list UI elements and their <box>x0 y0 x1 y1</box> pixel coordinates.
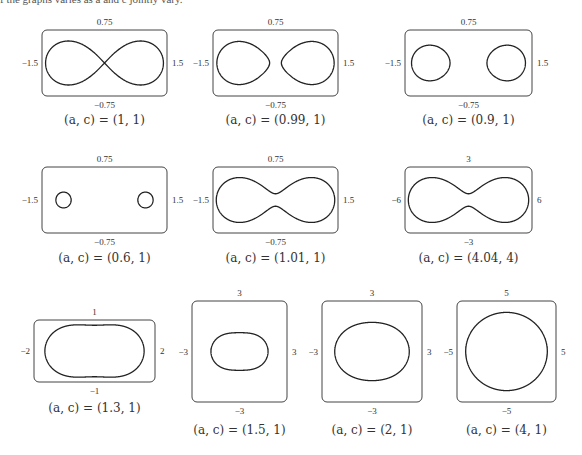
x-min-label: −1.5 <box>385 58 402 68</box>
y-max-label: 0.75 <box>268 17 284 27</box>
panel-caption: (a, c) = (1.3, 1) <box>48 401 140 415</box>
y-min-label: −3 <box>235 406 245 416</box>
plot-frame <box>405 167 532 233</box>
cassini-curve <box>46 41 164 85</box>
panel-caption: (a, c) = (4.04, 4) <box>419 251 519 265</box>
panel-caption: (a, c) = (1.5, 1) <box>193 423 285 437</box>
y-min-label: −5 <box>502 406 512 416</box>
cassini-curve <box>466 312 548 390</box>
cassini-curve <box>211 333 268 371</box>
y-max-label: 0.75 <box>461 17 477 27</box>
panel-caption: (a, c) = (1, 1) <box>64 113 145 127</box>
x-min-label: −1.5 <box>22 195 39 205</box>
y-min-label: −0.75 <box>265 100 286 110</box>
panel-caption: (a, c) = (0.99, 1) <box>226 113 326 127</box>
cassini-curve <box>216 178 334 223</box>
y-max-label: 0.75 <box>97 154 113 164</box>
x-max-label: 1.5 <box>537 58 549 68</box>
x-max-label: 2 <box>160 346 165 356</box>
x-min-label: −6 <box>391 195 401 205</box>
plot-frame <box>34 320 155 382</box>
y-min-label: −3 <box>367 406 377 416</box>
x-min-label: −5 <box>443 347 453 357</box>
y-min-label: −0.75 <box>94 237 115 247</box>
y-min-label: −0.75 <box>94 100 115 110</box>
x-max-label: 3 <box>292 347 297 357</box>
cassini-curve <box>408 178 528 223</box>
y-max-label: 0.75 <box>97 17 113 27</box>
x-max-label: 3 <box>427 347 432 357</box>
cassini-curve <box>45 325 144 377</box>
y-min-label: −0.75 <box>458 100 479 110</box>
plot-frame <box>213 167 338 233</box>
cassini-curve <box>412 45 526 81</box>
plot-frame <box>322 301 422 402</box>
y-min-label: −1 <box>90 386 100 396</box>
y-max-label: 3 <box>370 288 375 298</box>
panel-3: 0.75−0.75−1.51.5(a, c) = (0.9, 1) <box>385 17 549 127</box>
panel-caption: (a, c) = (0.6, 1) <box>58 251 150 265</box>
x-max-label: 5 <box>561 347 566 357</box>
panel-8: 3−3−33(a, c) = (1.5, 1) <box>178 288 297 437</box>
plot-frame <box>42 167 167 233</box>
x-min-label: −2 <box>20 346 30 356</box>
cassini-ovals-figure: 0.75−0.75−1.51.5(a, c) = (1, 1)0.75−0.75… <box>0 0 582 455</box>
y-max-label: 1 <box>92 307 97 317</box>
x-min-label: −1.5 <box>193 58 210 68</box>
panel-caption: (a, c) = (1.01, 1) <box>226 251 326 265</box>
y-max-label: 3 <box>466 154 471 164</box>
y-min-label: −3 <box>464 237 474 247</box>
panel-caption: (a, c) = (2, 1) <box>332 423 413 437</box>
y-max-label: 0.75 <box>268 154 284 164</box>
y-max-label: 5 <box>504 288 509 298</box>
x-min-label: −1.5 <box>193 195 210 205</box>
cassini-curve <box>335 322 410 380</box>
cassini-curve <box>56 192 153 208</box>
x-min-label: −3 <box>308 347 318 357</box>
panel-9: 3−3−33(a, c) = (2, 1) <box>308 288 432 437</box>
x-max-label: 1.5 <box>172 58 184 68</box>
panel-7: 1−1−22(a, c) = (1.3, 1) <box>20 307 164 415</box>
panel-4: 0.75−0.75−1.51.5(a, c) = (0.6, 1) <box>22 154 184 265</box>
plot-frame <box>405 30 532 96</box>
y-min-label: −0.75 <box>265 237 286 247</box>
y-max-label: 3 <box>237 288 242 298</box>
panel-2: 0.75−0.75−1.51.5(a, c) = (0.99, 1) <box>193 17 355 127</box>
x-max-label: 1.5 <box>343 195 355 205</box>
cassini-curve <box>217 41 334 84</box>
plot-frame <box>457 301 556 402</box>
x-max-label: 6 <box>537 195 542 205</box>
panel-caption: (a, c) = (0.9, 1) <box>422 113 514 127</box>
panel-caption: (a, c) = (4, 1) <box>466 423 547 437</box>
x-max-label: 1.5 <box>172 195 184 205</box>
panel-6: 3−3−66(a, c) = (4.04, 4) <box>391 154 542 265</box>
panel-1: 0.75−0.75−1.51.5(a, c) = (1, 1) <box>22 17 184 127</box>
panel-10: 5−5−55(a, c) = (4, 1) <box>443 288 566 437</box>
panel-5: 0.75−0.75−1.51.5(a, c) = (1.01, 1) <box>193 154 355 265</box>
plot-frame <box>213 30 338 96</box>
x-min-label: −3 <box>178 347 188 357</box>
plot-frame <box>192 301 287 402</box>
x-max-label: 1.5 <box>343 58 355 68</box>
x-min-label: −1.5 <box>22 58 39 68</box>
